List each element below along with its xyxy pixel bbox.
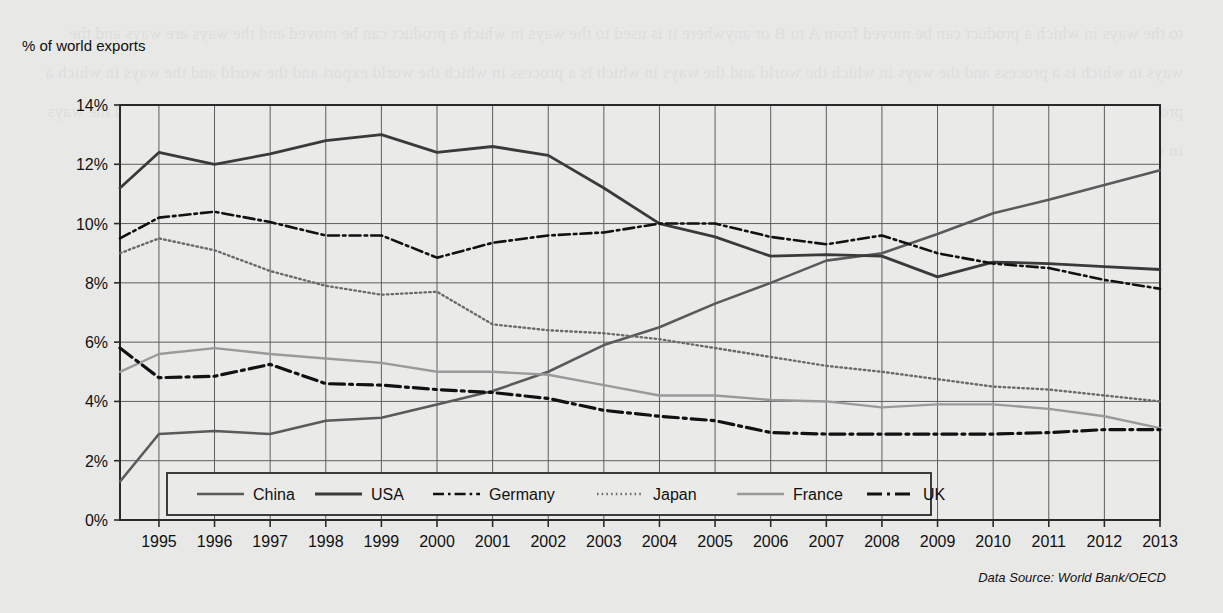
x-axis-tick-label: 2001: [475, 533, 511, 550]
x-axis-tick-label: 2011: [1032, 533, 1067, 550]
y-axis-tick-label: 14%: [76, 97, 108, 114]
x-axis-tick-label: 2005: [697, 533, 733, 550]
y-axis-tick-label: 0%: [85, 512, 108, 529]
x-axis-tick-label: 2013: [1142, 533, 1178, 550]
x-axis-tick-label: 2008: [864, 533, 900, 550]
plot-background: [120, 105, 1160, 520]
legend-label-usa: USA: [371, 486, 404, 503]
x-axis-tick-label: 1999: [364, 533, 400, 550]
x-axis-tick-label: 2006: [753, 533, 789, 550]
legend-label-germany: Germany: [489, 486, 555, 503]
legend-label-japan: Japan: [653, 486, 697, 503]
y-axis-tick-label: 2%: [85, 453, 108, 470]
source-note: Data Source: World Bank/OECD: [978, 570, 1166, 585]
x-axis-tick-label: 1995: [141, 533, 177, 550]
y-axis-tick-label: 4%: [85, 393, 108, 410]
x-axis-tick-label: 2007: [809, 533, 845, 550]
x-axis-tick-label: 1997: [252, 533, 288, 550]
x-axis-tick-label: 2003: [586, 533, 622, 550]
x-axis-tick-label: 2012: [1087, 533, 1123, 550]
y-axis-tick-label: 12%: [76, 156, 108, 173]
line-chart: 0%2%4%6%8%10%12%14%199519961997199819992…: [0, 0, 1223, 613]
x-axis-tick-label: 2009: [920, 533, 956, 550]
y-axis-tick-label: 6%: [85, 334, 108, 351]
legend-label-uk: UK: [923, 486, 946, 503]
x-axis-tick-label: 1998: [308, 533, 344, 550]
x-axis-tick-label: 2010: [975, 533, 1011, 550]
chart-svg: 0%2%4%6%8%10%12%14%199519961997199819992…: [0, 0, 1223, 613]
legend-label-china: China: [253, 486, 295, 503]
y-axis-tick-label: 8%: [85, 275, 108, 292]
x-axis-tick-label: 2004: [642, 533, 678, 550]
x-axis-tick-label: 2000: [419, 533, 455, 550]
x-axis-tick-label: 1996: [197, 533, 233, 550]
x-axis-tick-label: 2002: [530, 533, 566, 550]
y-axis-tick-label: 10%: [76, 216, 108, 233]
legend-label-france: France: [793, 486, 843, 503]
